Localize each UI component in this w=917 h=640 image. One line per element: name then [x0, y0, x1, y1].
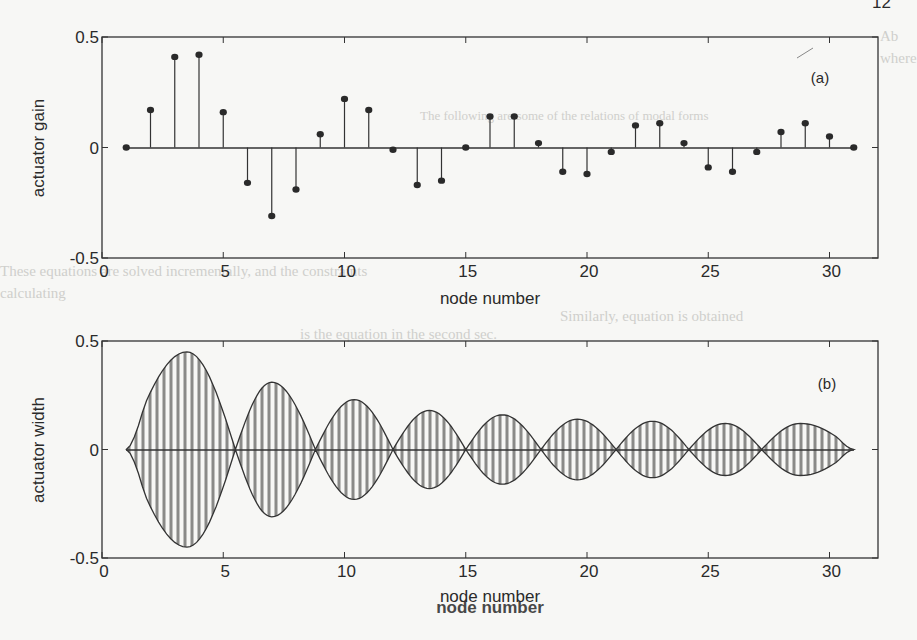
x-tick-label: 15 [458, 562, 477, 581]
stem-marker [438, 177, 445, 183]
stem-marker [195, 51, 202, 57]
x-tick-label: 15 [458, 262, 477, 281]
y-tick-label: -0.5 [70, 249, 99, 268]
chart-b: 051015202530 -0.500.5 (b) node number no… [29, 332, 878, 617]
stem-marker [341, 96, 348, 102]
stem-marker [292, 186, 299, 192]
y-tick-label: 0 [90, 441, 99, 460]
y-tick-label: 0.5 [75, 332, 99, 351]
y-axis-title-b: actuator width [29, 397, 48, 503]
stem-marker [389, 147, 396, 153]
x-tick-label: 20 [580, 262, 599, 281]
panel-label-a: (a) [811, 69, 829, 86]
x-axis-title-b-overprint: node number [436, 598, 544, 617]
y-axis-title-a: actuator gain [29, 99, 48, 197]
stem-marker [317, 131, 324, 137]
stem-marker [559, 169, 566, 175]
stem-marker [414, 182, 421, 188]
stem-marker [729, 169, 736, 175]
stem-marker [220, 109, 227, 115]
stem-marker [171, 54, 178, 60]
stem-marker [147, 107, 154, 113]
stem-marker [705, 164, 712, 170]
x-tick-label: 0 [99, 262, 108, 281]
stem-marker [583, 171, 590, 177]
stem-marker [632, 122, 639, 128]
stem-marker [608, 149, 615, 155]
stem-marker [268, 213, 275, 219]
x-tick-label: 5 [221, 262, 230, 281]
x-tick-label: 25 [701, 562, 720, 581]
stem-marker [802, 120, 809, 126]
stem-marker [123, 144, 130, 150]
chart-a: 051015202530 -0.500.5 (a) node number ac… [29, 28, 878, 308]
stem-series [123, 51, 858, 219]
stem-marker [486, 113, 493, 119]
y-tick-label: 0.5 [75, 28, 99, 47]
x-tick-label: 0 [99, 562, 108, 581]
stem-marker [656, 120, 663, 126]
x-tick-label: 25 [701, 262, 720, 281]
y-tick-label: 0 [90, 139, 99, 158]
stem-marker [511, 113, 518, 119]
stem-marker [535, 140, 542, 146]
pen-mark [797, 48, 813, 58]
page-number: 12 [872, 0, 891, 12]
stem-marker [753, 149, 760, 155]
panel-label-b: (b) [818, 375, 836, 392]
x-tick-label: 10 [337, 562, 356, 581]
x-ticks-a: 051015202530 [99, 37, 841, 281]
x-tick-label: 30 [822, 262, 841, 281]
stem-marker [462, 144, 469, 150]
x-axis-title-a: node number [440, 289, 541, 308]
stem-marker [680, 140, 687, 146]
x-tick-label: 10 [337, 262, 356, 281]
x-tick-label: 30 [822, 562, 841, 581]
x-tick-label: 20 [580, 562, 599, 581]
stem-marker [826, 133, 833, 139]
stem-marker [777, 129, 784, 135]
stem-marker [244, 180, 251, 186]
x-tick-label: 5 [221, 562, 230, 581]
stem-marker [850, 144, 857, 150]
y-tick-label: -0.5 [70, 549, 99, 568]
stem-marker [365, 107, 372, 113]
